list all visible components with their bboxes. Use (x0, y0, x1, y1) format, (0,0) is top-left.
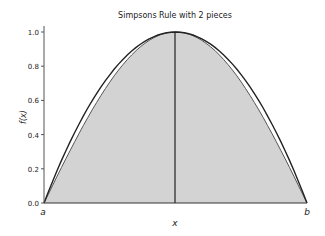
x-tick-a: a (40, 207, 46, 217)
x-tick-b: b (304, 207, 310, 217)
svg-text:1.0: 1.0 (28, 29, 39, 37)
svg-text:0.6: 0.6 (28, 97, 40, 105)
y-ticks: 0.00.20.40.60.81.0 (28, 29, 44, 208)
svg-text:0.0: 0.0 (28, 200, 39, 208)
svg-text:0.2: 0.2 (28, 166, 39, 174)
simpsons-chart: Simpsons Rule with 2 pieces 0.00.20.40.6… (0, 0, 325, 236)
svg-text:0.8: 0.8 (28, 63, 39, 71)
y-label: f(x) (19, 110, 28, 124)
chart-title: Simpsons Rule with 2 pieces (118, 11, 232, 20)
x-label: x (171, 218, 178, 228)
svg-text:0.4: 0.4 (28, 132, 40, 140)
